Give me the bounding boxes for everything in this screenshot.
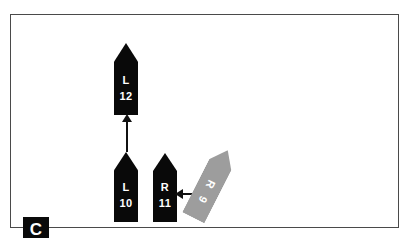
marker-letter-l10: L [114, 182, 138, 193]
marker-letter-r11: R [153, 182, 177, 193]
figure-root: L 12 L 10 R 11 R 9 C [0, 0, 409, 238]
arrow-up-icon [126, 121, 128, 152]
marker-number-r11: 11 [153, 198, 177, 209]
panel-frame: L 12 L 10 R 11 R 9 C [10, 14, 399, 228]
marker-l10: L 10 [114, 152, 138, 222]
marker-letter-l12: L [114, 75, 138, 86]
marker-r11: R 11 [153, 153, 177, 222]
panel-label: C [23, 217, 49, 238]
marker-number-l12: 12 [114, 91, 138, 102]
marker-number-l10: 10 [114, 198, 138, 209]
marker-l12: L 12 [114, 43, 138, 115]
marker-r9: R 9 [182, 144, 239, 223]
